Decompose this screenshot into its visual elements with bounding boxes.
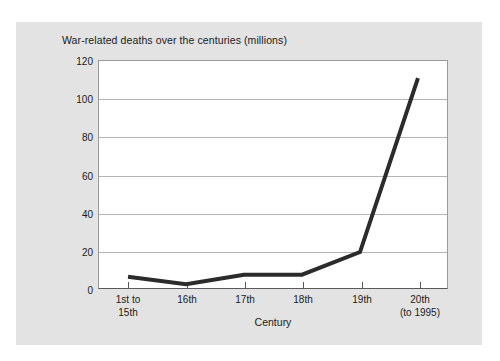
x-axis-tick-label: 18th (293, 294, 312, 307)
x-axis-tick-label: 17th (235, 294, 254, 307)
x-axis-tick-label-line: 18th (293, 294, 312, 307)
y-axis-tick-label: 20 (82, 246, 93, 257)
x-axis-tick-label-line: 16th (177, 294, 196, 307)
y-axis-tick-label: 40 (82, 208, 93, 219)
series-polyline (128, 78, 418, 284)
x-axis-title: Century (98, 316, 448, 328)
x-axis-tick-label: 16th (177, 294, 196, 307)
x-axis-tick-label-line: 20th (400, 294, 440, 307)
y-axis-tick-label: 80 (82, 132, 93, 143)
x-axis-tick-label: 1st to15th (116, 294, 140, 319)
plot-area: 020406080100120 1st to15th16th17th18th19… (98, 60, 448, 289)
y-axis-tick-label: 60 (82, 170, 93, 181)
x-axis-tick-label-line: (to 1995) (400, 307, 440, 320)
y-axis-tick-label: 100 (76, 94, 93, 105)
chart-figure: War-related deaths over the centuries (m… (16, 22, 482, 345)
y-axis-tick-label: 120 (76, 56, 93, 67)
x-axis-tick-label: 20th(to 1995) (400, 294, 440, 319)
x-axis-tick-label: 19th (352, 294, 371, 307)
x-axis-tick-label-line: 19th (352, 294, 371, 307)
chart-title: War-related deaths over the centuries (m… (62, 34, 287, 46)
x-axis-tick-label-line: 17th (235, 294, 254, 307)
y-axis-tick-label: 0 (87, 285, 93, 296)
x-axis-tick-label-line: 15th (116, 307, 140, 320)
series-line-war-deaths (99, 61, 447, 288)
x-axis-tick-label-line: 1st to (116, 294, 140, 307)
